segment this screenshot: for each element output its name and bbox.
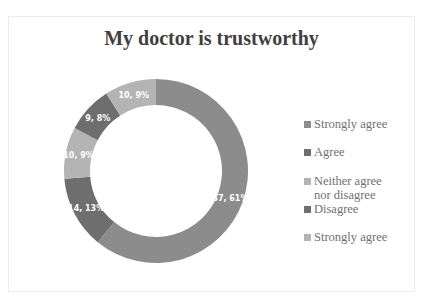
legend-item-strongly-agree: Strongly agree: [304, 117, 394, 131]
data-label: 9, 8%: [85, 114, 110, 123]
legend-label: Disagree: [314, 202, 394, 216]
data-label: 14, 13%: [68, 204, 104, 213]
legend-label: Strongly agree: [314, 117, 394, 131]
data-label: 10, 9%: [63, 151, 94, 160]
legend-label: Agree: [314, 145, 394, 159]
legend-swatch: [304, 178, 311, 185]
data-label: 10, 9%: [118, 91, 149, 100]
legend-swatch: [304, 206, 311, 213]
legend-item-neither: Neither agree nor disagree: [304, 174, 394, 202]
legend-item-strongly-agree-2: Strongly agree: [304, 230, 394, 244]
legend-item-disagree: Disagree: [304, 202, 394, 216]
legend-swatch: [304, 234, 311, 241]
legend-label: Strongly agree: [314, 230, 394, 244]
legend-swatch: [304, 149, 311, 156]
legend-item-agree: Agree: [304, 145, 394, 159]
data-label: 67, 61%: [212, 194, 248, 203]
legend-swatch: [304, 121, 311, 128]
legend-label: Neither agree nor disagree: [314, 174, 394, 202]
